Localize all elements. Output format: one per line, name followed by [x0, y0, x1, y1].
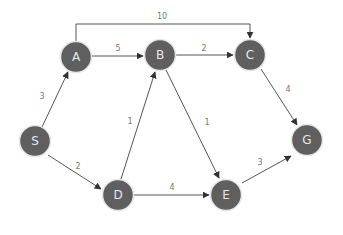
edge-label-d-e: 4	[169, 183, 174, 192]
node-g: G	[292, 125, 323, 156]
node-a: A	[61, 42, 92, 73]
edge-s-d	[48, 155, 101, 189]
edge-label-d-b: 1	[127, 117, 132, 126]
node-label-e: E	[222, 188, 230, 202]
edge-label-a-b: 5	[115, 44, 120, 53]
node-d: D	[103, 180, 134, 211]
edge-d-b	[121, 72, 155, 179]
edge-a-c	[76, 24, 250, 41]
node-b: B	[145, 40, 176, 71]
edge-label-a-c: 10	[157, 12, 167, 21]
edge-label-b-e: 1	[204, 118, 209, 127]
node-label-g: G	[302, 133, 311, 147]
edge-label-e-g: 3	[257, 158, 262, 167]
node-c: C	[235, 40, 266, 71]
node-label-b: B	[156, 48, 164, 62]
edge-e-g	[242, 156, 291, 183]
node-label-s: S	[31, 134, 39, 148]
edge-s-a	[42, 72, 68, 127]
node-label-a: A	[72, 50, 81, 64]
edge-label-b-c: 2	[201, 44, 206, 53]
node-label-d: D	[113, 188, 122, 202]
edge-label-c-g: 4	[285, 85, 290, 94]
node-s: S	[20, 126, 51, 157]
edge-label-s-a: 3	[39, 92, 44, 101]
edge-c-g	[261, 69, 297, 125]
edges: 3 2 5 10 2 1 1 4 4 3	[39, 12, 297, 195]
edge-b-e	[166, 70, 219, 178]
node-label-c: C	[246, 48, 254, 62]
node-e: E	[211, 180, 242, 211]
graph-canvas: 3 2 5 10 2 1 1 4 4 3 S A B C D	[0, 0, 343, 235]
edge-label-s-d: 2	[75, 162, 80, 171]
